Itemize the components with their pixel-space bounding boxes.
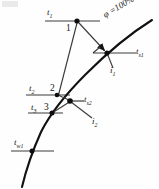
point-label-3: 3 [44, 103, 49, 113]
marker-point-3 [50, 111, 55, 116]
marker-point-s1 [104, 50, 109, 55]
label-ts1-sub: s1 [139, 52, 144, 58]
label-tw1: tw1 [14, 138, 23, 150]
label-t3-sub: 3 [34, 108, 37, 114]
point-label-2: 2 [50, 84, 55, 94]
label-i2: i2 [92, 117, 97, 129]
label-tw1-sub: w1 [17, 143, 24, 149]
label-ts2: ts2 [84, 95, 92, 107]
label-t1-sub: 1 [50, 13, 53, 19]
label-t3: t3 [31, 103, 36, 115]
process-line-1-to-2 [59, 23, 78, 95]
label-i1: i1 [110, 66, 115, 78]
process-line-1-to-s1 [79, 23, 105, 51]
label-t2: t2 [29, 84, 34, 96]
label-i2-sub: 2 [95, 122, 98, 128]
label-ts1: ts1 [136, 47, 144, 59]
diagram-canvas [0, 0, 159, 189]
leader-line-ts1-left [93, 47, 100, 53]
marker-point-2 [55, 93, 60, 98]
label-ts2-sub: s2 [87, 100, 92, 106]
marker-point-1 [74, 18, 79, 23]
label-t2-sub: 2 [32, 89, 35, 95]
process-lines [52, 23, 113, 118]
marker-point-w1 [30, 149, 35, 154]
psychrometric-diagram: φ =100% t1 ts1 i1 t2 ts2 t3 i2 tw1 1 2 3 [0, 0, 159, 189]
label-i1-sub: 1 [113, 71, 116, 77]
marker-point-s2 [67, 98, 73, 104]
point-label-1: 1 [66, 24, 71, 34]
label-t1: t1 [47, 8, 52, 20]
